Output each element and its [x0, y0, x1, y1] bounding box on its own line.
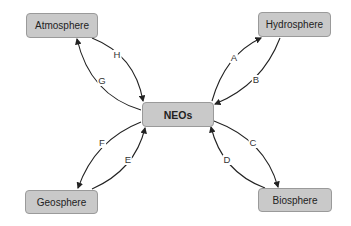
arrow-a	[212, 38, 261, 101]
node-label: Hydrosphere	[266, 19, 323, 30]
arrow-g	[77, 39, 141, 110]
node-hydrosphere: Hydrosphere	[258, 12, 331, 37]
node-geosphere: Geosphere	[25, 190, 98, 214]
edge-label-a: A	[230, 53, 238, 63]
arrow-d	[211, 127, 265, 188]
node-label: Biosphere	[272, 195, 317, 206]
node-label: Atmosphere	[35, 20, 89, 31]
arrow-h	[92, 38, 143, 101]
node-label: Geosphere	[37, 197, 86, 208]
node-neos: NEOs	[142, 102, 214, 127]
edge-label-h: H	[113, 50, 122, 60]
node-biosphere: Biosphere	[258, 188, 332, 212]
edge-label-f: F	[98, 138, 106, 148]
edge-label-g: G	[97, 76, 106, 86]
edge-label-d: D	[223, 155, 232, 165]
node-atmosphere: Atmosphere	[26, 13, 98, 38]
edge-label-e: E	[124, 155, 132, 165]
edge-label-b: B	[252, 75, 260, 85]
node-label: NEOs	[164, 109, 193, 121]
edge-label-c: C	[249, 138, 258, 148]
